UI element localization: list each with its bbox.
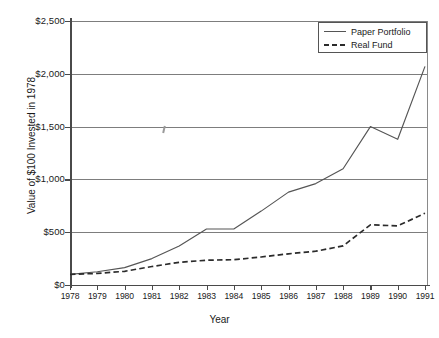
legend-item-paper-portfolio: Paper Portfolio — [324, 25, 411, 38]
solid-line-swatch-icon — [324, 28, 346, 36]
legend-label: Real Fund — [351, 40, 393, 50]
dashed-line-swatch-icon — [324, 41, 346, 49]
x-axis-title: Year — [0, 314, 439, 325]
legend-label: Paper Portfolio — [351, 27, 411, 37]
series-paper-portfolio-line — [70, 66, 425, 274]
legend: Paper Portfolio Real Fund — [318, 22, 427, 53]
series-real-fund-line — [70, 213, 425, 274]
y-axis-title: Value of $100 Invested in 1978 — [26, 31, 37, 261]
legend-item-real-fund: Real Fund — [324, 38, 393, 51]
line-chart: $0$500$1,000$1,500$2,000$2,500 197819791… — [0, 0, 439, 338]
